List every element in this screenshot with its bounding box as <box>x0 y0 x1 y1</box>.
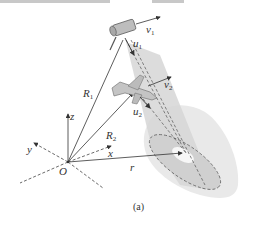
vector-R1 <box>68 40 123 162</box>
label-u1: u1 <box>133 38 142 51</box>
label-x-axis: x <box>108 148 113 159</box>
label-z-axis: z <box>70 111 74 122</box>
label-v1: v1 <box>146 24 154 37</box>
diagram-canvas <box>0 0 257 227</box>
label-y-axis: y <box>27 144 32 155</box>
label-r: r <box>130 162 134 173</box>
vector-R2 <box>68 93 133 162</box>
label-u2: u2 <box>133 106 142 119</box>
label-v2: v2 <box>164 79 172 92</box>
label-origin: O <box>59 166 67 177</box>
label-R1: R1 <box>83 88 93 101</box>
figure-caption: (a) <box>133 201 144 212</box>
label-R2: R2 <box>106 130 116 143</box>
